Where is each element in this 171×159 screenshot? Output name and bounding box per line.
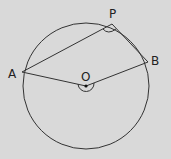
segment-pb [112,24,148,62]
label-a: A [8,67,17,81]
center-dot [84,84,87,87]
segment-ao [22,72,86,86]
label-o: O [81,70,90,84]
circle-diagram: A P B O [0,0,171,159]
label-p: P [109,7,116,21]
segment-ob [86,62,148,86]
label-b: B [151,54,159,68]
